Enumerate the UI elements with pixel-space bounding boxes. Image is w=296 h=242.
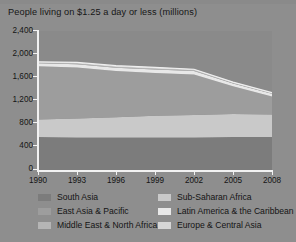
legend-column-left: South Asia East Asia & Pacific Middle Ea… (38, 190, 157, 232)
legend-swatch-icon (158, 194, 171, 201)
legend-item: Sub-Saharan Africa (158, 190, 294, 204)
y-tick-label: 1,200 (5, 96, 33, 104)
area-band (38, 66, 272, 119)
legend-item: Middle East & North Africa (38, 218, 157, 232)
x-axis-tick (194, 171, 195, 175)
legend-swatch-icon (38, 208, 51, 215)
legend-item: South Asia (38, 190, 157, 204)
legend-item-label: Middle East & North Africa (57, 221, 157, 230)
chart-legend: South Asia East Asia & Pacific Middle Ea… (0, 190, 296, 238)
y-axis-tick (33, 53, 37, 54)
y-axis-tick (33, 99, 37, 100)
y-axis-line (37, 30, 39, 171)
legend-swatch-icon (38, 194, 51, 201)
x-axis-tick (38, 171, 39, 175)
x-tick-label: 1990 (29, 176, 47, 185)
chart-title: People living on $1.25 a day or less (mi… (8, 7, 197, 17)
x-axis-tick (155, 171, 156, 175)
legend-item-label: East Asia & Pacific (57, 207, 129, 216)
chart-figure: People living on $1.25 a day or less (mi… (0, 0, 296, 242)
legend-column-right: Sub-Saharan Africa Latin America & the C… (158, 190, 294, 232)
plot-wrapper: 2,400 2,000 1,600 1,200 800 400 0 1990 1… (0, 24, 296, 176)
y-axis-tick (33, 30, 37, 31)
area-band (38, 137, 272, 170)
y-axis-tick (33, 169, 37, 170)
y-axis-tick (33, 76, 37, 77)
y-tick-label: 2,400 (5, 27, 33, 35)
legend-swatch-icon (158, 222, 171, 229)
stacked-area-series (38, 31, 272, 170)
page-top-edge (0, 0, 296, 4)
x-tick-label: 2002 (185, 176, 203, 185)
legend-item-label: Europe & Central Asia (177, 221, 262, 230)
plot-area (38, 31, 272, 170)
y-axis-labels: 2,400 2,000 1,600 1,200 800 400 0 (0, 24, 33, 176)
y-tick-label: 2,000 (5, 50, 33, 58)
legend-item-label: Latin America & the Caribbean (177, 207, 294, 216)
x-tick-label: 1993 (68, 176, 86, 185)
x-axis-tick (233, 171, 234, 175)
x-tick-label: 1996 (107, 176, 125, 185)
y-tick-label: 400 (5, 142, 33, 150)
y-tick-label: 0 (5, 165, 33, 173)
legend-item: Latin America & the Caribbean (158, 204, 294, 218)
legend-swatch-icon (158, 208, 171, 215)
x-axis-tick (116, 171, 117, 175)
x-axis-tick (77, 171, 78, 175)
legend-item: East Asia & Pacific (38, 204, 157, 218)
y-axis-tick (33, 145, 37, 146)
x-axis-tick (272, 171, 273, 175)
x-tick-label: 1999 (146, 176, 164, 185)
x-tick-label: 2008 (263, 176, 281, 185)
x-tick-label: 2005 (224, 176, 242, 185)
legend-item: Europe & Central Asia (158, 218, 294, 232)
y-axis-tick (33, 122, 37, 123)
y-tick-label: 800 (5, 119, 33, 127)
y-tick-label: 1,600 (5, 73, 33, 81)
legend-swatch-icon (38, 222, 51, 229)
legend-item-label: South Asia (57, 193, 98, 202)
legend-item-label: Sub-Saharan Africa (177, 193, 252, 202)
